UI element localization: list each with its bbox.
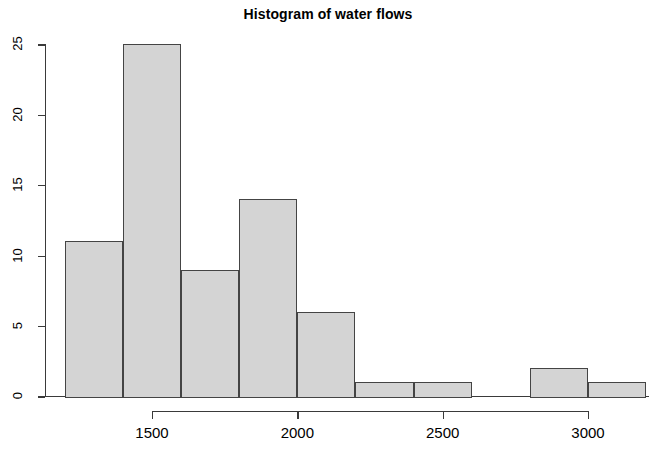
x-axis-line	[152, 411, 589, 412]
y-axis-tick-label: 20	[10, 97, 25, 131]
histogram-bar	[530, 368, 588, 397]
y-axis-tick	[38, 115, 45, 116]
histogram-bar	[297, 312, 355, 398]
x-axis-tick-label: 2500	[408, 424, 478, 441]
y-axis-tick	[38, 256, 45, 257]
y-axis-tick-label: 15	[10, 168, 25, 202]
x-axis-tick	[443, 411, 444, 419]
histogram-bar	[414, 382, 472, 397]
histogram-chart: Histogram of water flows 0510152025 1500…	[0, 0, 656, 449]
y-axis-tick-label: 25	[10, 27, 25, 61]
histogram-bar	[123, 44, 181, 397]
histogram-bar	[239, 199, 297, 397]
y-axis-tick	[38, 396, 45, 397]
histogram-bar	[65, 241, 123, 397]
x-axis-tick-label: 1500	[117, 424, 187, 441]
x-axis-tick	[297, 411, 298, 419]
y-axis-tick	[38, 326, 45, 327]
x-axis-tick-label: 2000	[262, 424, 332, 441]
y-axis-tick	[38, 44, 45, 45]
y-axis-tick-label: 10	[10, 238, 25, 272]
x-axis-tick	[588, 411, 589, 419]
histogram-bar	[588, 382, 646, 397]
plot-area: 0510152025 1500200025003000	[0, 0, 656, 449]
histogram-bar	[355, 382, 413, 397]
y-axis-tick	[38, 185, 45, 186]
y-axis-tick-label: 0	[10, 379, 25, 413]
histogram-bar	[181, 270, 239, 398]
x-axis-tick	[152, 411, 153, 419]
y-axis-tick-label: 5	[10, 308, 25, 342]
x-axis-tick-label: 3000	[553, 424, 623, 441]
y-axis-line	[45, 44, 46, 397]
